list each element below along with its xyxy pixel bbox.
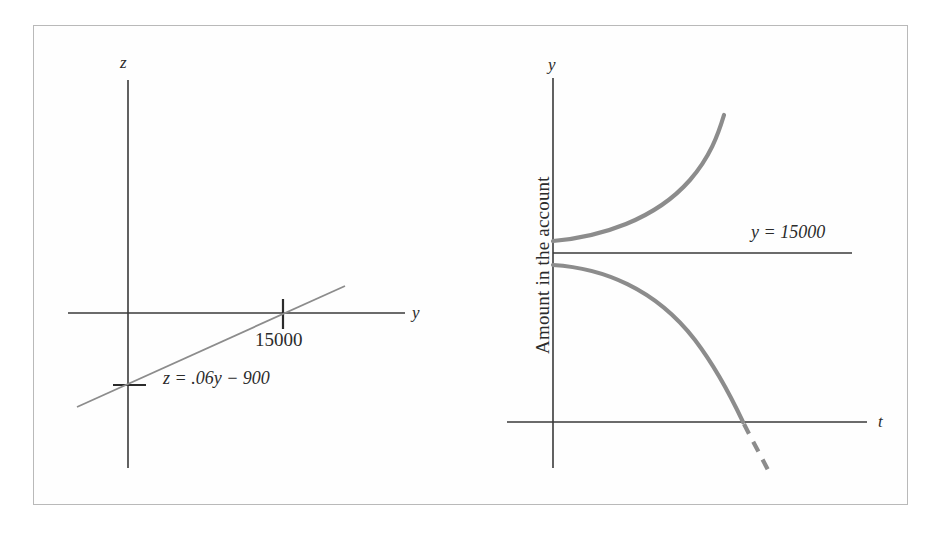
z-axis-label: z [120,54,127,71]
t-axis-label: t [878,413,883,430]
x-intercept-tick-label: 15000 [255,330,303,349]
y-axis-caption: Amount in the account [533,176,552,354]
right-graph-panel: y t Amount in the account y = 15000 [470,0,948,533]
left-graph-svg [0,0,470,533]
y-axis-label: y [412,304,420,321]
figure-container: z y 15000 z = .06y − 900 y t Amount in t… [0,0,948,533]
linear-equation-label: z = .06y − 900 [163,369,270,387]
equilibrium-line-label: y = 15000 [751,223,825,241]
left-graph-panel: z y 15000 z = .06y − 900 [0,0,470,533]
decaying-solution-dashed-continuation [744,424,768,470]
linear-function-line [77,286,345,407]
y-axis-label: y [548,56,556,73]
growing-solution-curve [553,115,724,241]
decaying-solution-curve [553,265,743,422]
